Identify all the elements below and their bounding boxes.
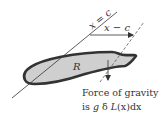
diagram-canvas: x = c x − c R Force of gravity is g δ L(…: [0, 0, 162, 128]
caption-line-2: is g δ L(x)dx: [82, 101, 142, 112]
caption-delta: δ: [99, 101, 111, 112]
caption-L: L: [110, 101, 117, 112]
region-label: R: [72, 61, 81, 72]
distance-label: x − c: [104, 22, 130, 33]
caption-rest: (x)dx: [117, 101, 142, 112]
caption-is: is: [82, 101, 93, 112]
caption-line-1: Force of gravity: [82, 87, 159, 98]
